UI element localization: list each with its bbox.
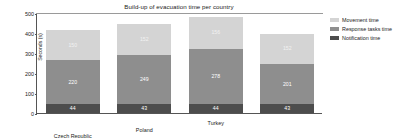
- y-tick-label: 200: [25, 71, 34, 77]
- legend-item[interactable]: Response tasks time: [330, 25, 416, 33]
- bar-segment[interactable]: 43: [117, 104, 171, 113]
- bar-group[interactable]: 44220150Czech Republic: [46, 30, 100, 113]
- y-tick-label: 400: [25, 31, 34, 37]
- bar-segment-value-label: 249: [140, 77, 149, 82]
- bar-segment-value-label: 156: [211, 30, 220, 35]
- bar-segment-value-label: 201: [283, 82, 292, 87]
- y-tick-mark: [35, 54, 37, 55]
- legend-swatch: [330, 18, 339, 22]
- legend-item[interactable]: Movement time: [330, 16, 416, 24]
- bar-segment[interactable]: 152: [260, 34, 314, 64]
- bar-group[interactable]: 43201152UK: [260, 34, 314, 113]
- bar-segment[interactable]: 44: [46, 104, 100, 113]
- x-tick-label: Czech Republic: [46, 133, 100, 138]
- bar-segment[interactable]: 201: [260, 64, 314, 104]
- bar-segment[interactable]: 156: [189, 17, 243, 48]
- bar-segment-value-label: 44: [70, 106, 76, 111]
- plot-area: Seconds (s) 0100200300400500 44220150Cze…: [36, 14, 322, 114]
- bar-segment[interactable]: 278: [189, 49, 243, 105]
- x-tick-label: UK: [260, 137, 314, 138]
- bar-segment-value-label: 150: [68, 43, 77, 48]
- legend-label: Response tasks time: [342, 26, 392, 32]
- legend-label: Notification time: [342, 35, 380, 41]
- x-tick-label: Poland: [117, 127, 171, 133]
- legend-label: Movement time: [342, 17, 379, 23]
- bar-group[interactable]: 43249152Poland: [117, 24, 171, 113]
- legend-item[interactable]: Notification time: [330, 34, 416, 42]
- bar-segment-value-label: 220: [68, 80, 77, 85]
- bar-segment[interactable]: 249: [117, 55, 171, 105]
- bar-segment[interactable]: 150: [46, 30, 100, 60]
- y-tick-label: 500: [25, 11, 34, 17]
- legend-swatch: [330, 36, 339, 40]
- chart-title: Build-up of evacuation time per country: [36, 3, 322, 10]
- y-tick-mark: [35, 74, 37, 75]
- bar-segment[interactable]: 44: [189, 104, 243, 113]
- y-tick-mark: [35, 94, 37, 95]
- y-tick-mark: [35, 34, 37, 35]
- evacuation-time-stacked-bar-chart: Build-up of evacuation time per country …: [0, 0, 419, 138]
- y-tick-mark: [35, 114, 37, 115]
- y-axis-title: Seconds (s): [37, 19, 43, 75]
- bar-segment-value-label: 152: [140, 37, 149, 42]
- y-tick-mark: [35, 14, 37, 15]
- bar-segment[interactable]: 43: [260, 104, 314, 113]
- bar-segment-value-label: 44: [213, 106, 219, 111]
- y-tick-label: 0: [31, 111, 34, 117]
- y-tick-label: 300: [25, 51, 34, 57]
- bar-segment-value-label: 43: [141, 106, 147, 111]
- bar-group[interactable]: 44278156Turkey: [189, 17, 243, 113]
- bar-segment-value-label: 152: [283, 46, 292, 51]
- legend-swatch: [330, 27, 339, 31]
- x-tick-label: Turkey: [189, 120, 243, 126]
- bar-segment[interactable]: 220: [46, 60, 100, 104]
- bar-segment-value-label: 43: [284, 106, 290, 111]
- y-tick-label: 100: [25, 91, 34, 97]
- chart-legend: Movement timeResponse tasks timeNotifica…: [330, 16, 416, 43]
- bar-segment[interactable]: 152: [117, 24, 171, 54]
- bar-segment-value-label: 278: [211, 74, 220, 79]
